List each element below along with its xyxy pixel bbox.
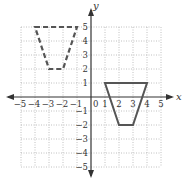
x-axis-right-arrow-icon: [166, 94, 174, 100]
origin-label: 0: [93, 99, 98, 109]
svg-text:2: 2: [83, 64, 88, 74]
x-axis-label: x: [176, 91, 182, 102]
svg-text:4: 4: [144, 99, 149, 109]
svg-text:−1: −1: [75, 106, 88, 116]
y-axis-label: y: [92, 0, 99, 11]
svg-text:−5: −5: [75, 162, 88, 172]
svg-text:1: 1: [83, 78, 88, 88]
svg-text:3: 3: [83, 50, 88, 60]
svg-text:−5: −5: [14, 99, 27, 109]
svg-text:−4: −4: [75, 148, 88, 158]
svg-text:−4: −4: [28, 99, 41, 109]
svg-text:2: 2: [116, 99, 121, 109]
dashed-trapezoid: [35, 27, 77, 69]
y-axis: [88, 8, 94, 178]
svg-text:1: 1: [102, 99, 107, 109]
svg-text:−3: −3: [75, 134, 88, 144]
y-axis-down-arrow-icon: [88, 170, 94, 178]
svg-text:5: 5: [158, 99, 163, 109]
svg-text:−3: −3: [42, 99, 55, 109]
solid-trapezoid: [105, 83, 147, 125]
svg-text:−2: −2: [56, 99, 69, 109]
svg-text:3: 3: [130, 99, 135, 109]
coordinate-plane: x y 0 −5 −4 −3 −2 −1 1 2 3 4 5 5 4 3 2 1…: [0, 0, 183, 182]
svg-text:5: 5: [83, 22, 88, 32]
svg-text:4: 4: [83, 36, 88, 46]
svg-text:−2: −2: [75, 120, 88, 130]
